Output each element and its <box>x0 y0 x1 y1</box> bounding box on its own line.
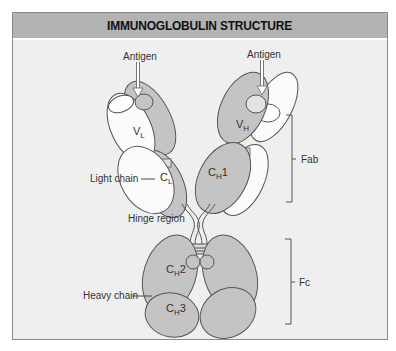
hinge-region-label: Hinge region <box>128 213 185 224</box>
antigen-label-left: Antigen <box>123 51 157 62</box>
fab-label: Fab <box>301 154 319 165</box>
left-arm <box>97 73 196 225</box>
fc-label: Fc <box>299 277 310 288</box>
carbohydrate-right <box>200 255 214 269</box>
heavy-chain-label: Heavy chain <box>83 290 138 301</box>
fab-bracket <box>286 115 292 202</box>
immunoglobulin-diagram: Antigen Antigen VL VH CL CH1 CH2 CH3 Lig… <box>0 0 396 351</box>
right-antigen-site <box>246 95 266 113</box>
right-arm <box>184 64 308 223</box>
antigen-label-right: Antigen <box>247 49 281 60</box>
light-chain-label: Light chain <box>90 173 138 184</box>
carbohydrate-left <box>186 255 200 269</box>
fc-bracket <box>285 239 291 324</box>
